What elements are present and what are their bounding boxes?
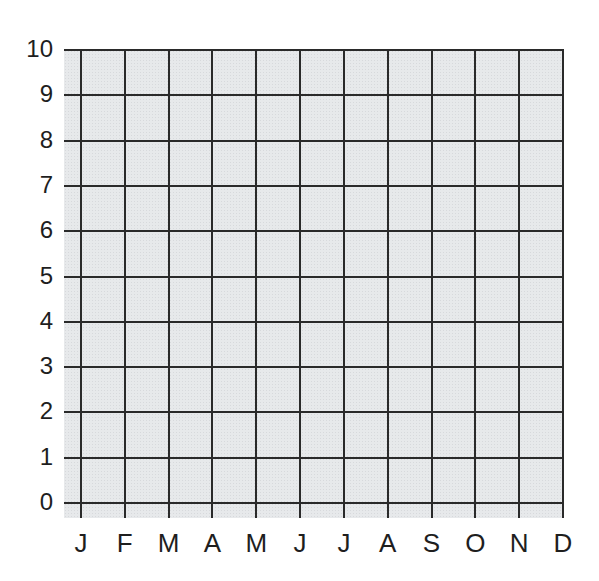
vertical-gridline	[343, 50, 345, 518]
x-tick-label: M	[241, 530, 271, 556]
horizontal-gridline	[64, 366, 564, 368]
horizontal-gridline	[64, 502, 564, 504]
x-tick-label: N	[504, 530, 534, 556]
horizontal-gridline	[64, 49, 564, 51]
horizontal-gridline	[64, 276, 564, 278]
y-tick-label: 7	[3, 173, 53, 197]
horizontal-gridline	[64, 411, 564, 413]
vertical-gridline	[431, 50, 433, 518]
x-tick-label: S	[417, 530, 447, 556]
y-tick-label: 10	[3, 37, 53, 61]
vertical-gridline	[387, 50, 389, 518]
vertical-gridline	[124, 50, 126, 518]
y-tick-label: 5	[3, 264, 53, 288]
vertical-gridline	[562, 50, 564, 518]
y-tick-label: 3	[3, 354, 53, 378]
x-tick-label: J	[329, 530, 359, 556]
y-tick-label: 0	[3, 490, 53, 514]
vertical-gridline	[211, 50, 213, 518]
x-tick-label: F	[110, 530, 140, 556]
x-tick-label: M	[154, 530, 184, 556]
y-tick-label: 8	[3, 128, 53, 152]
y-tick-label: 4	[3, 309, 53, 333]
horizontal-gridline	[64, 140, 564, 142]
x-tick-label: A	[197, 530, 227, 556]
horizontal-gridline	[64, 457, 564, 459]
x-tick-label: J	[66, 530, 96, 556]
horizontal-gridline	[64, 230, 564, 232]
y-tick-label: 1	[3, 445, 53, 469]
blank-chart-grid: 10 9 8 7 6 5 4 3 2 1 0 J F M A M J J A S…	[0, 0, 599, 581]
vertical-gridline	[299, 50, 301, 518]
x-tick-label: A	[373, 530, 403, 556]
vertical-gridline	[255, 50, 257, 518]
vertical-gridline	[518, 50, 520, 518]
x-tick-label: J	[285, 530, 315, 556]
horizontal-gridline	[64, 94, 564, 96]
y-tick-label: 6	[3, 218, 53, 242]
x-tick-label: O	[460, 530, 490, 556]
plot-area	[64, 50, 564, 518]
vertical-gridline	[80, 50, 82, 518]
y-tick-label: 2	[3, 399, 53, 423]
vertical-gridline	[168, 50, 170, 518]
horizontal-gridline	[64, 185, 564, 187]
horizontal-gridline	[64, 321, 564, 323]
vertical-gridline	[474, 50, 476, 518]
x-tick-label: D	[548, 530, 578, 556]
y-tick-label: 9	[3, 82, 53, 106]
